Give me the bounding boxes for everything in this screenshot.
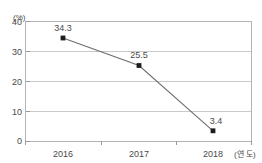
- y-tick-labels: 40 30 20 10 0: [12, 17, 22, 146]
- y-tick-label-20: 20: [12, 77, 22, 87]
- y-tick-label-0: 0: [17, 136, 22, 146]
- chart-container: (%) 40 30 20 10 0 2016 2017 2018 (연 도) 3…: [0, 0, 262, 163]
- x-category-2017: 2017: [129, 149, 149, 159]
- data-point-2016: [61, 36, 66, 41]
- x-tickmarks: [26, 141, 252, 145]
- x-category-2018: 2018: [203, 149, 223, 159]
- data-label-2016: 34.3: [54, 23, 72, 33]
- data-point-2018: [211, 128, 216, 133]
- x-category-2016: 2016: [53, 149, 73, 159]
- x-category-labels: 2016 2017 2018: [53, 149, 223, 159]
- y-tick-label-10: 10: [12, 107, 22, 117]
- y-tick-label-40: 40: [12, 17, 22, 27]
- x-axis-title: (연 도): [234, 150, 256, 159]
- y-tick-label-30: 30: [12, 47, 22, 57]
- data-label-2018: 3.4: [210, 116, 223, 126]
- line-chart: (%) 40 30 20 10 0 2016 2017 2018 (연 도) 3…: [0, 0, 262, 163]
- data-label-2017: 25.5: [130, 50, 148, 60]
- data-point-2017: [137, 63, 142, 68]
